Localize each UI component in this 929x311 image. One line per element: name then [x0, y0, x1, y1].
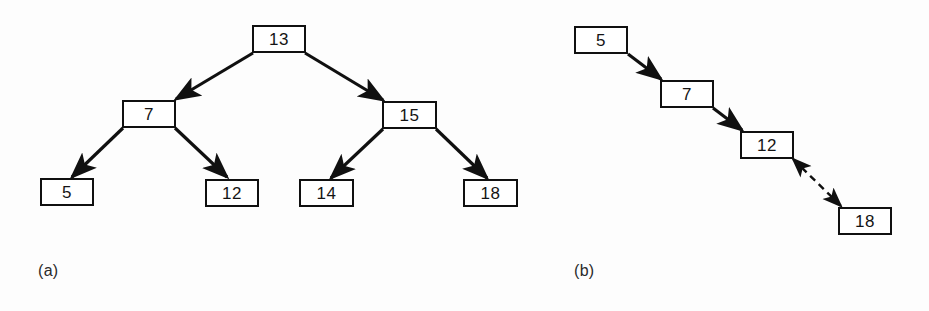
edge-a-15-to-a-14	[331, 129, 383, 178]
chain-node-box[interactable]: 18	[838, 207, 892, 235]
edge-a-7-to-a-12	[175, 128, 227, 177]
edge-a-root-13-to-a-7	[176, 53, 253, 99]
chain-node-label: 12	[757, 136, 777, 153]
chain-node-label: 7	[682, 85, 692, 102]
panel-b-linked-chain: 5 7 12 18 (b)	[545, 0, 929, 311]
edge-b-12-to-b-18	[793, 159, 841, 206]
tree-node-label: 15	[400, 106, 420, 123]
tree-node-box[interactable]: 15	[382, 101, 437, 129]
tree-node-label: 13	[269, 30, 289, 47]
tree-node-label: 12	[222, 184, 242, 201]
panel-b-edge-group	[628, 54, 841, 206]
tree-node-label: 18	[481, 184, 501, 201]
panel-a-caption: (a)	[38, 262, 58, 280]
figure-root: 13 7 15 5 12 14 18 (a)	[0, 0, 929, 311]
chain-node-box[interactable]: 5	[574, 26, 628, 54]
chain-node-box[interactable]: 7	[660, 80, 714, 108]
panel-a-binary-search-tree: 13 7 15 5 12 14 18 (a)	[0, 0, 545, 311]
tree-node-label: 14	[317, 184, 337, 201]
edge-a-root-13-to-a-15	[305, 53, 383, 100]
edge-a-15-to-a-18	[436, 129, 487, 178]
chain-node-label: 5	[596, 31, 606, 48]
edge-a-7-to-a-5	[72, 128, 123, 177]
edge-b-7-to-b-12	[713, 108, 742, 130]
tree-node-box[interactable]: 5	[40, 178, 94, 206]
edge-b-5-to-b-7	[628, 54, 661, 79]
tree-node-box[interactable]: 18	[463, 179, 518, 207]
panel-b-caption: (b)	[574, 262, 594, 280]
tree-node-box[interactable]: 12	[205, 179, 259, 207]
chain-node-box[interactable]: 12	[740, 131, 794, 159]
chain-node-label: 18	[855, 212, 875, 229]
tree-node-label: 7	[144, 105, 154, 122]
tree-node-box[interactable]: 13	[252, 25, 306, 53]
tree-node-box[interactable]: 7	[122, 100, 176, 128]
tree-node-label: 5	[62, 183, 72, 200]
tree-node-box[interactable]: 14	[299, 179, 354, 207]
